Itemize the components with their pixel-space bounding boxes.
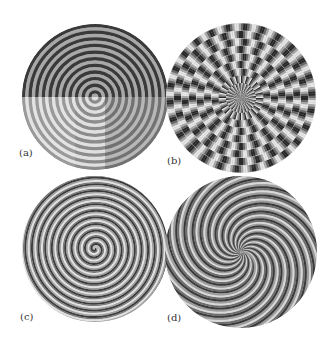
figure-canvas — [0, 0, 330, 341]
panel-b-label: (b) — [167, 155, 181, 166]
panel-b-segmented-rings — [166, 23, 316, 173]
panel-a-concentric-rings — [22, 24, 178, 170]
panel-c-label: (c) — [20, 311, 33, 322]
panel-d-label: (d) — [167, 312, 181, 323]
panel-d-multi-arm-spiral — [161, 172, 321, 332]
panel-c-single-spiral — [7, 166, 180, 335]
panel-a-label: (a) — [19, 147, 33, 158]
